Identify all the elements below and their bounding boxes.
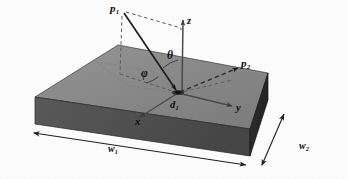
label-axis-y: y: [236, 103, 241, 114]
label-dimension-w2: w2: [299, 141, 309, 151]
label-scattered-vector: p2: [241, 58, 250, 69]
label-angle-theta: θ: [167, 50, 173, 62]
origin-marker: [172, 90, 184, 95]
label-axis-x: x: [135, 117, 140, 128]
dimension-w2: [262, 114, 284, 165]
label-origin-point: d1: [170, 100, 179, 111]
label-axis-z: z: [187, 16, 191, 27]
label-angle-phi: φ: [141, 68, 148, 80]
label-dimension-w1: w1: [108, 144, 118, 154]
z-axis: [182, 20, 183, 93]
label-incident-vector: p1: [110, 3, 119, 14]
figure-container: p1 p2 z y x θ φ d1 w1 w2: [0, 0, 348, 179]
scattering-geometry-diagram: [0, 0, 348, 179]
